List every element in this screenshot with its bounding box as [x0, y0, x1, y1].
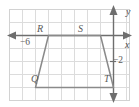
y-axis-label: y	[126, 7, 130, 17]
x-axis-label: x	[125, 40, 129, 50]
y-axis-tick-label-neg2: −2	[113, 56, 123, 66]
vertex-label-t: T	[104, 74, 110, 84]
x-axis-arrow-left-icon	[7, 32, 16, 40]
y-axis-arrow-down-icon	[110, 93, 118, 103]
y-axis	[110, 5, 118, 103]
vertex-label-s: S	[78, 24, 83, 34]
geometry-figure: R S T Q −6 −2 x y	[0, 0, 139, 107]
vertex-label-r: R	[37, 24, 43, 34]
x-axis-tick-label-neg6: −6	[20, 38, 30, 48]
vertex-label-q: Q	[31, 74, 38, 84]
coordinate-plane-svg	[0, 0, 139, 107]
